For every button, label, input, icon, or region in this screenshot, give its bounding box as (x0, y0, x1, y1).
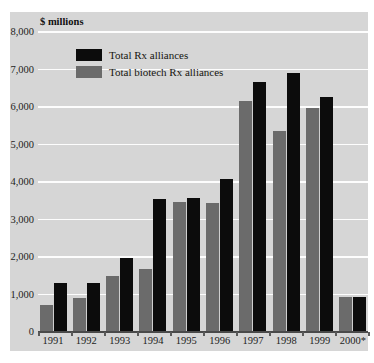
legend-label-total-rx-alliances: Total Rx alliances (109, 49, 188, 61)
x-axis-tick-label: 1997 (238, 335, 268, 346)
y-axis-tick-label: 4,000 (0, 176, 34, 187)
bar-group (38, 31, 68, 331)
bar-total-biotech-rx-alliances (239, 101, 253, 331)
bar-total-rx-alliances (187, 198, 200, 332)
y-axis-tick-labels: 8,0007,0006,0005,0004,0003,0002,0001,000… (0, 31, 34, 331)
x-axis-tick-label: 1995 (171, 335, 201, 346)
bar-total-biotech-rx-alliances (273, 131, 287, 331)
bar-total-biotech-rx-alliances (139, 269, 153, 331)
x-axis-tickmark (368, 332, 370, 336)
bar-total-rx-alliances (287, 73, 300, 331)
y-axis-tick-label: 2,000 (0, 251, 34, 262)
x-axis-tick-label: 1996 (205, 335, 235, 346)
bar-total-biotech-rx-alliances (339, 297, 353, 331)
bar-group (238, 31, 268, 331)
bar-total-biotech-rx-alliances (106, 276, 120, 331)
x-axis-tick-label: 1998 (271, 335, 301, 346)
bar-total-rx-alliances (253, 82, 266, 331)
legend-swatch-gray (76, 66, 102, 78)
x-axis-tick-label: 1992 (71, 335, 101, 346)
bar-total-biotech-rx-alliances (73, 298, 87, 331)
chart-legend: Total Rx alliances Total biotech Rx alli… (76, 48, 223, 79)
y-axis-unit-label: $ millions (40, 16, 83, 27)
bar-total-rx-alliances (87, 283, 100, 331)
bar-total-rx-alliances (220, 179, 233, 331)
bar-total-biotech-rx-alliances (306, 108, 320, 331)
bar-group (305, 31, 335, 331)
bar-total-rx-alliances (320, 97, 333, 331)
bar-total-rx-alliances (353, 297, 366, 331)
bar-total-biotech-rx-alliances (206, 203, 220, 331)
bar-total-rx-alliances (153, 199, 166, 331)
y-axis-tick-label: 7,000 (0, 63, 34, 74)
bar-group (338, 31, 368, 331)
chart-figure: $ millions 8,0007,0006,0005,0004,0003,00… (0, 0, 374, 363)
bar-group (271, 31, 301, 331)
x-axis-tick-label: 2000* (338, 335, 368, 346)
bar-total-rx-alliances (54, 283, 67, 331)
x-axis-tick-label: 1993 (105, 335, 135, 346)
x-axis-tick-labels: 1991199219931994199519961997199819992000… (38, 335, 368, 346)
bar-total-biotech-rx-alliances (40, 305, 54, 331)
y-axis-tick-label: 3,000 (0, 213, 34, 224)
y-axis-tick-label: 6,000 (0, 101, 34, 112)
y-axis-tick-label: 8,000 (0, 26, 34, 37)
legend-item-total-rx-alliances: Total Rx alliances (76, 48, 223, 62)
y-axis-tick-label: 5,000 (0, 138, 34, 149)
bar-total-biotech-rx-alliances (173, 202, 187, 331)
x-axis-tick-label: 1994 (138, 335, 168, 346)
legend-swatch-black (76, 49, 102, 61)
y-axis-tick-label: 1,000 (0, 288, 34, 299)
x-axis-tick-label: 1999 (305, 335, 335, 346)
legend-item-total-biotech-rx-alliances: Total biotech Rx alliances (76, 65, 223, 79)
y-axis-tick-label: 0 (0, 326, 34, 337)
legend-label-total-biotech-rx-alliances: Total biotech Rx alliances (109, 66, 223, 78)
x-axis-tick-label: 1991 (38, 335, 68, 346)
bar-total-rx-alliances (120, 258, 133, 332)
